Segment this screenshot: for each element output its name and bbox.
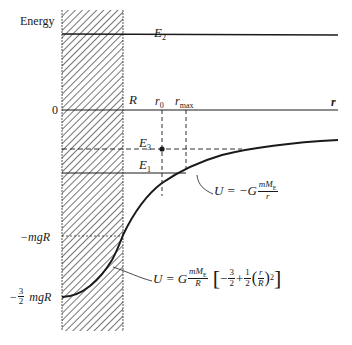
outside-formula-fraction: mME r bbox=[258, 180, 278, 202]
r-over-R-term: r R bbox=[258, 268, 264, 288]
outside-formula-lhs: U = −G bbox=[214, 184, 257, 197]
inside-plus: + bbox=[236, 272, 243, 285]
outside-formula-num-sub: E bbox=[273, 185, 277, 191]
inside-formula-num-sub: E bbox=[203, 272, 207, 278]
f1-den: 2 bbox=[229, 279, 234, 288]
paren-open: ( bbox=[252, 270, 257, 286]
e2-sub: 2 bbox=[162, 33, 166, 42]
f3-den: R bbox=[258, 279, 264, 288]
f2-num: 1 bbox=[244, 268, 251, 278]
e3-name: E bbox=[139, 135, 147, 150]
neg-three-halves-mgR-tick-label: − 3 2 mgR bbox=[10, 287, 51, 307]
inside-formula-prefactor: mME R bbox=[188, 267, 208, 289]
outside-formula-leader bbox=[197, 175, 213, 194]
minus-sign: − bbox=[10, 291, 17, 303]
f1-num: 3 bbox=[228, 268, 235, 278]
mgR-text: mgR bbox=[29, 291, 51, 303]
three-halves-term: 3 2 bbox=[228, 268, 235, 288]
outside-formula-den: r bbox=[266, 192, 270, 201]
outside-potential-formula: U = −G mME r bbox=[214, 180, 279, 202]
rmax-sub: max bbox=[180, 101, 194, 110]
bracket-close: ] bbox=[274, 267, 281, 289]
energy-axis-label: Energy bbox=[20, 15, 54, 27]
neg-mgR-tick-label: −mgR bbox=[20, 231, 50, 243]
e1-name: E bbox=[139, 157, 147, 172]
e1-label: E1 bbox=[139, 158, 151, 174]
e3-point bbox=[159, 146, 164, 151]
zero-tick-label: 0 bbox=[52, 104, 58, 116]
one-half-term: 1 2 bbox=[244, 268, 251, 288]
outside-formula-num: mM bbox=[259, 179, 273, 189]
r0-sub: 0 bbox=[160, 101, 164, 110]
f3-num: r bbox=[258, 268, 264, 278]
f2-den: 2 bbox=[245, 279, 250, 288]
three-halves-fraction: 3 2 bbox=[18, 287, 25, 307]
r-axis-label: r bbox=[331, 96, 336, 108]
inside-formula-num: mM bbox=[189, 266, 203, 276]
earth-radius-label: R bbox=[129, 93, 137, 106]
e2-label: E2 bbox=[154, 26, 166, 42]
energy-diagram bbox=[0, 0, 352, 345]
inside-formula-den: R bbox=[195, 279, 201, 288]
bracket-open: [ bbox=[213, 267, 220, 289]
rmax-label: rmax bbox=[175, 95, 193, 110]
e3-sub: 3 bbox=[147, 143, 151, 152]
e2-name: E bbox=[154, 25, 162, 40]
three-halves-den: 2 bbox=[19, 297, 24, 306]
e1-sub: 1 bbox=[147, 165, 151, 174]
inside-formula-lhs: U = G bbox=[153, 272, 187, 285]
r0-label: r0 bbox=[155, 95, 164, 110]
e3-label: E3 bbox=[139, 136, 151, 152]
inside-potential-formula: U = G mME R [ − 3 2 + 1 2 ( r R ) 2 ] bbox=[153, 267, 281, 289]
inside-minus: − bbox=[220, 272, 227, 285]
